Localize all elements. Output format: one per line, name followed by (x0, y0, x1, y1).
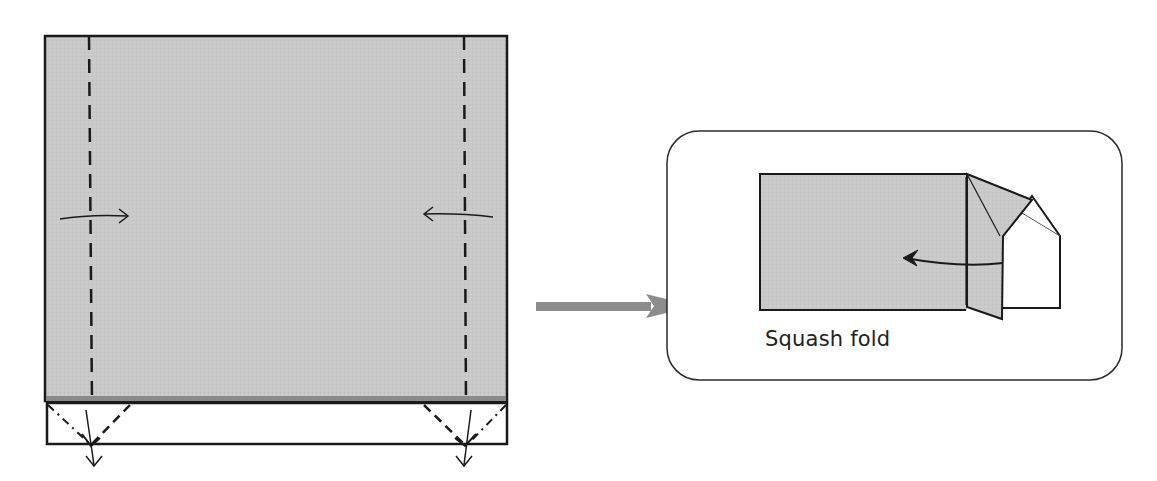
origami-diagram (0, 0, 1157, 481)
bottom-strip (47, 403, 507, 444)
inset-caption: Squash fold (765, 327, 890, 351)
squash-fold-inset (667, 131, 1122, 380)
bottom-edge-shadow (46, 396, 506, 401)
paper-rectangle (45, 36, 507, 401)
main-paper-figure (45, 36, 507, 466)
inset-paper (760, 174, 967, 310)
